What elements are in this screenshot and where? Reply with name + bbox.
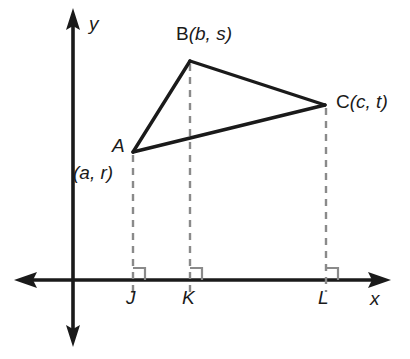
vertex-label-c-name: C bbox=[336, 91, 350, 112]
geometry-figure-canvas: A (a, r) B(b, s) C(c, t) J K L x y bbox=[0, 0, 410, 359]
triangle-side-ab bbox=[133, 61, 190, 152]
vertex-label-c: C(c, t) bbox=[336, 92, 388, 111]
vertex-coords-a: (a, r) bbox=[73, 163, 113, 182]
triangle-side-bc bbox=[190, 61, 325, 105]
foot-label-k: K bbox=[182, 288, 195, 307]
x-axis-label: x bbox=[370, 289, 380, 308]
vertex-label-b-coords: (b, s) bbox=[189, 23, 232, 44]
y-axis-label: y bbox=[89, 14, 99, 33]
foot-label-l: L bbox=[318, 288, 329, 307]
vertex-label-b: B(b, s) bbox=[176, 24, 232, 43]
vertex-label-c-coords: (c, t) bbox=[350, 91, 388, 112]
coordinate-plane-svg bbox=[0, 0, 410, 359]
drop-lines bbox=[133, 64, 326, 292]
vertex-label-b-name: B bbox=[176, 23, 189, 44]
triangle-side-ac bbox=[133, 105, 325, 152]
triangle-abc bbox=[133, 61, 325, 152]
vertex-label-a: A bbox=[112, 136, 125, 155]
foot-label-j: J bbox=[126, 288, 136, 307]
